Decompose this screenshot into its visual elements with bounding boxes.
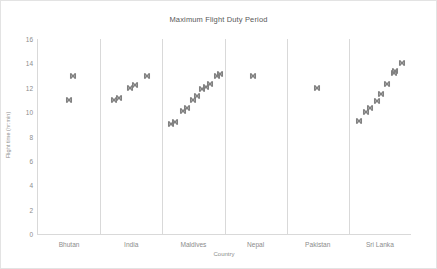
data-point-marker (179, 107, 186, 114)
data-point-marker (214, 72, 221, 79)
data-point-marker (384, 81, 391, 88)
x-axis-tick-label-pakistan: Pakistan (305, 241, 330, 248)
data-point-marker (115, 94, 122, 101)
data-point-marker (206, 81, 213, 88)
y-axis-tick-label: 10 (26, 109, 33, 116)
category-divider (349, 39, 350, 234)
x-axis-tick-label-maldives: Maldives (180, 241, 206, 248)
data-point-marker (144, 72, 151, 79)
data-point-marker (171, 118, 178, 125)
data-point-marker (168, 121, 175, 128)
y-axis-tick-label: 12 (26, 84, 33, 91)
y-axis-tick-label: 14 (26, 60, 33, 67)
data-point-marker (378, 90, 385, 97)
data-point-marker (110, 96, 117, 103)
data-point-marker (217, 71, 224, 78)
x-axis-tick-label-nepal: Nepal (247, 241, 264, 248)
data-point-marker (190, 96, 197, 103)
category-divider (287, 39, 288, 234)
chart-title: Maximum Flight Duty Period (1, 15, 436, 24)
data-point-marker (390, 70, 397, 77)
data-point-marker (363, 109, 370, 116)
x-axis-tick-label-sri-lanka: Sri Lanka (366, 241, 394, 248)
y-axis-tick-label: 16 (26, 36, 33, 43)
x-axis-title: Country (37, 251, 411, 257)
chart-container: Maximum Flight Duty Period Flight time (… (0, 0, 437, 269)
data-point-marker (366, 105, 373, 112)
data-point-marker (202, 83, 209, 90)
data-point-marker (69, 72, 76, 79)
data-point-marker (131, 82, 138, 89)
data-point-marker (373, 98, 380, 105)
y-axis-tick-label: 8 (29, 133, 33, 140)
data-point-marker (66, 96, 73, 103)
data-point-marker (355, 117, 362, 124)
data-point-marker (199, 85, 206, 92)
x-axis-tick-label-india: India (124, 241, 138, 248)
category-divider (225, 39, 226, 234)
y-axis-tick-label: 2 (29, 206, 33, 213)
x-axis-tick-label-bhutan: Bhutan (59, 241, 80, 248)
data-point-marker (194, 93, 201, 100)
data-point-marker (183, 105, 190, 112)
data-point-marker (399, 60, 406, 67)
y-axis-tick-label: 6 (29, 157, 33, 164)
category-divider (100, 39, 101, 234)
data-point-marker (313, 84, 320, 91)
data-point-marker (392, 67, 399, 74)
data-point-marker (250, 72, 257, 79)
category-divider (162, 39, 163, 234)
y-axis-tick-label: 4 (29, 182, 33, 189)
y-axis-title: Flight time (hr:min) (5, 111, 11, 158)
y-axis-tick-label: 0 (29, 231, 33, 238)
data-point-marker (127, 84, 134, 91)
plot-area: 0246810121416BhutanIndiaMaldivesNepalPak… (37, 39, 411, 235)
